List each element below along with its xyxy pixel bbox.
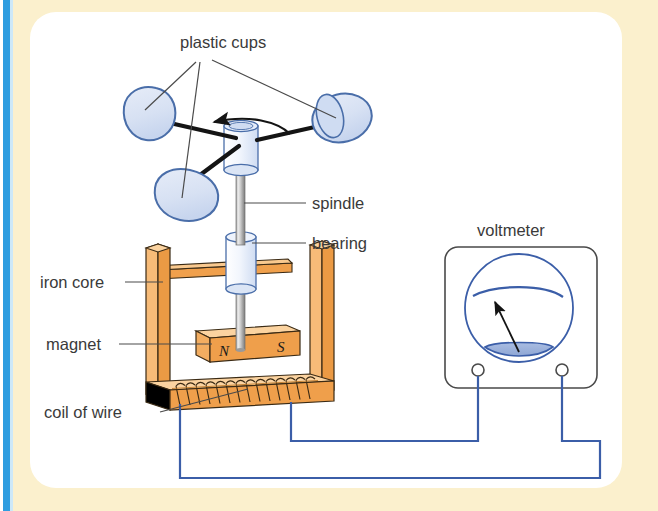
spindle-tip — [236, 348, 245, 352]
magnet-pole-north: N — [218, 343, 230, 359]
cup-left — [124, 87, 176, 140]
left-post-face — [158, 244, 170, 393]
bearing-bottom-ellipse — [226, 284, 256, 294]
hub-bottom-ellipse — [224, 164, 258, 175]
hub-body — [224, 126, 258, 170]
iron-core-right-post — [310, 241, 334, 391]
label-bearing: bearing — [312, 234, 367, 252]
label-magnet: magnet — [46, 335, 101, 353]
iron-core-left-post — [146, 244, 170, 394]
label-iron-core: iron core — [40, 273, 104, 291]
hub-cylinder — [224, 120, 258, 175]
right-post-face — [322, 241, 334, 390]
voltmeter-box — [445, 247, 597, 388]
spindle-upper-body — [236, 165, 245, 245]
label-voltmeter: voltmeter — [477, 221, 545, 239]
label-coil-of-wire: coil of wire — [44, 403, 122, 421]
left-post-side — [146, 244, 158, 394]
label-spindle: spindle — [312, 194, 364, 212]
spindle-rod-lower — [236, 285, 245, 352]
page-left-rule — [3, 0, 10, 511]
page-left-rule-soft — [10, 0, 13, 511]
right-post-side — [310, 241, 322, 391]
page-left-margin — [0, 0, 3, 511]
spindle-rod-upper — [236, 165, 245, 245]
magnet-pole-south: S — [277, 339, 285, 355]
page-right-band — [629, 0, 658, 511]
voltmeter-terminal-right[interactable] — [556, 364, 568, 376]
hub-top-inner-ellipse — [229, 122, 253, 129]
figure-root: N S — [0, 0, 658, 511]
label-plastic-cups: plastic cups — [180, 33, 266, 51]
anemometer-generator-diagram: N S — [0, 0, 658, 511]
cup-left-body — [124, 87, 176, 140]
voltmeter-terminal-left[interactable] — [472, 364, 484, 376]
